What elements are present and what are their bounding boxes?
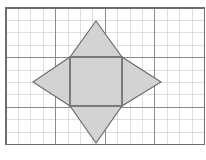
grid-diagram: [0, 0, 206, 160]
figure-root: g: [0, 0, 206, 160]
